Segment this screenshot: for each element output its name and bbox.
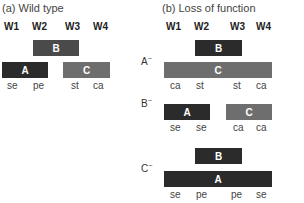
- c-minus-organ-3: pe: [231, 189, 242, 200]
- panel-a-title: (a) Wild type: [2, 2, 64, 14]
- a-minus-organ-1: ca: [170, 80, 181, 91]
- b-minus-gene-a-box: A: [164, 104, 210, 120]
- a-minus-gene-c-box: C: [164, 62, 272, 78]
- c-minus-organ-4: se: [256, 189, 267, 200]
- panel-a-organ-2: pe: [33, 80, 44, 91]
- c-minus-gene-b-box: B: [195, 148, 242, 164]
- c-minus-gene-a-box: A: [164, 171, 272, 187]
- a-minus-organ-4: ca: [256, 80, 267, 91]
- panel-a-whorl-4: W4: [93, 21, 108, 32]
- row-label-b-minus: B−: [141, 97, 152, 109]
- b-minus-organ-2: se: [196, 122, 207, 133]
- panel-a-organ-4: ca: [93, 80, 104, 91]
- a-minus-organ-2: st: [196, 80, 204, 91]
- panel-a-organ-1: se: [7, 80, 18, 91]
- b-minus-gene-c-box: C: [226, 104, 272, 120]
- gene-c-box: C: [63, 62, 110, 78]
- panel-a-whorl-1: W1: [4, 21, 19, 32]
- panel-b-whorl-2: W2: [194, 21, 209, 32]
- gene-b-box: B: [33, 40, 79, 56]
- b-minus-organ-1: se: [170, 122, 181, 133]
- row-label-c-minus: C−: [141, 162, 152, 174]
- b-minus-organ-4: ca: [256, 122, 267, 133]
- a-minus-organ-3: st: [233, 80, 241, 91]
- gene-a-box: A: [2, 62, 48, 78]
- panel-b-whorl-3: W3: [230, 21, 245, 32]
- panel-a-organ-3: st: [71, 80, 79, 91]
- c-minus-organ-2: pe: [196, 189, 207, 200]
- panel-a-whorl-3: W3: [65, 21, 80, 32]
- panel-b-whorl-4: W4: [256, 21, 271, 32]
- c-minus-organ-1: se: [170, 189, 181, 200]
- a-minus-gene-b-box: B: [195, 40, 242, 56]
- panel-b-whorl-1: W1: [166, 21, 181, 32]
- panel-b-title: (b) Loss of function: [162, 2, 256, 14]
- b-minus-organ-3: ca: [233, 122, 244, 133]
- panel-a-whorl-2: W2: [32, 21, 47, 32]
- row-label-a-minus: A−: [141, 55, 152, 67]
